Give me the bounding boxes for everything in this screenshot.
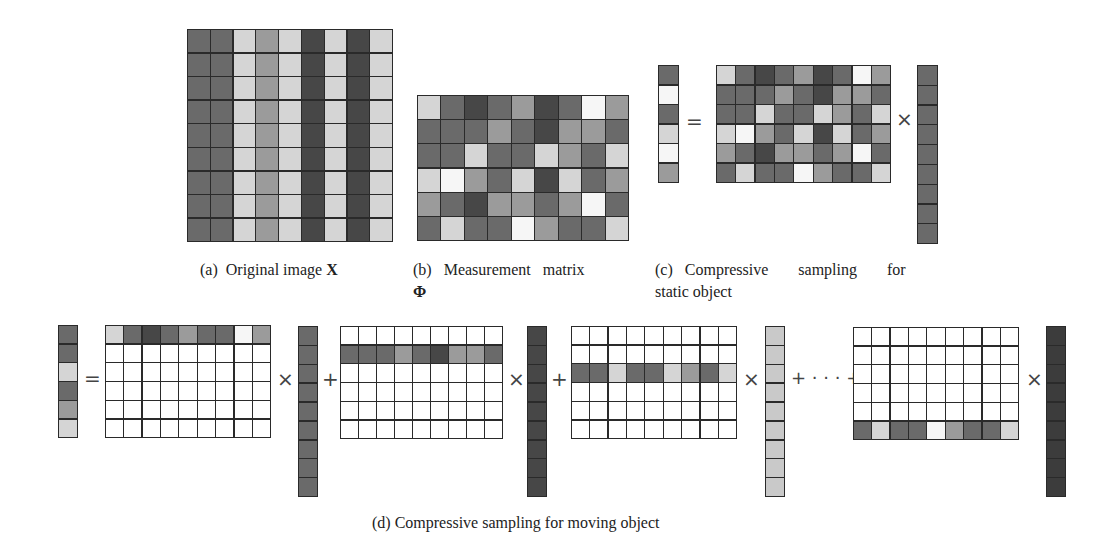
- matrix-cell: [872, 328, 889, 345]
- matrix-cell: [341, 346, 358, 363]
- matrix-cell: [418, 193, 440, 216]
- matrix-cell: [964, 328, 981, 345]
- matrix-cell: [395, 346, 412, 363]
- vector-cell: [528, 403, 546, 421]
- matrix-cell: [701, 421, 718, 438]
- pixel-cell: [256, 219, 278, 241]
- matrix-cell: [413, 421, 430, 438]
- pixel-cell: [211, 148, 233, 170]
- pixel-cell: [256, 172, 278, 194]
- matrix-cell: [627, 421, 644, 438]
- matrix-cell: [645, 383, 662, 400]
- matrix-cell: [418, 169, 440, 192]
- matrix-cell: [216, 363, 233, 380]
- matrix-cell: [198, 326, 215, 343]
- matrix-cell: [645, 421, 662, 438]
- matrix-cell: [927, 422, 944, 439]
- matrix-cell: [854, 384, 871, 401]
- caption-a: (a) Original image X: [200, 259, 338, 281]
- matrix-cell: [645, 402, 662, 419]
- pixel-cell: [188, 148, 210, 170]
- matrix-cell: [717, 144, 735, 162]
- matrix-cell: [1001, 403, 1018, 420]
- pixel-cell: [234, 101, 256, 123]
- matrix-cell: [441, 193, 463, 216]
- pixel-cell: [325, 101, 347, 123]
- vector-cell: [59, 401, 77, 418]
- matrix-cell: [719, 346, 736, 363]
- matrix-cell: [413, 402, 430, 419]
- moving-output-vector: [58, 325, 78, 438]
- pixel-cell: [348, 172, 370, 194]
- matrix-cell: [235, 420, 252, 437]
- matrix-cell: [512, 169, 534, 192]
- matrix-cell: [701, 346, 718, 363]
- pixel-cell: [211, 77, 233, 99]
- pixel-cell: [348, 54, 370, 76]
- times-sign: ×: [508, 369, 525, 389]
- vector-cell: [299, 459, 317, 477]
- matrix-cell: [179, 345, 196, 362]
- pixel-cell: [325, 124, 347, 146]
- pixel-cell: [234, 195, 256, 217]
- pixel-cell: [188, 30, 210, 52]
- matrix-cell: [143, 382, 160, 399]
- matrix-cell: [964, 347, 981, 364]
- matrix-cell: [488, 193, 510, 216]
- matrix-cell: [235, 345, 252, 362]
- vector-cell: [59, 345, 77, 362]
- matrix-cell: [682, 346, 699, 363]
- vector-cell: [918, 205, 937, 224]
- matrix-cell: [535, 193, 557, 216]
- matrix-cell: [983, 347, 1000, 364]
- matrix-cell: [467, 364, 484, 381]
- matrix-cell: [467, 327, 484, 344]
- pixel-cell: [279, 101, 301, 123]
- vector-cell: [528, 441, 546, 459]
- matrix-cell: [359, 364, 376, 381]
- matrix-cell: [441, 120, 463, 143]
- matrix-cell: [572, 364, 589, 381]
- matrix-cell: [572, 383, 589, 400]
- matrix-cell: [488, 217, 510, 240]
- matrix-cell: [485, 421, 502, 438]
- plus-sign: +: [551, 369, 568, 389]
- matrix-cell: [682, 364, 699, 381]
- matrix-cell: [124, 326, 141, 343]
- vector-cell: [1047, 365, 1065, 383]
- matrix-cell: [590, 421, 607, 438]
- vector-cell: [1047, 327, 1065, 345]
- matrix-cell: [891, 328, 908, 345]
- vector-cell: [528, 384, 546, 402]
- matrix-cell: [106, 382, 123, 399]
- matrix-cell: [606, 169, 628, 192]
- matrix-cell: [143, 326, 160, 343]
- matrix-cell: [701, 402, 718, 419]
- pixel-cell: [279, 219, 301, 241]
- matrix-cell: [216, 420, 233, 437]
- matrix-cell: [179, 401, 196, 418]
- matrix-cell: [572, 421, 589, 438]
- matrix-cell: [736, 164, 754, 182]
- matrix-cell: [449, 421, 466, 438]
- matrix-cell: [124, 420, 141, 437]
- pixel-cell: [188, 172, 210, 194]
- matrix-cell: [719, 327, 736, 344]
- matrix-cell: [814, 144, 832, 162]
- symbol-phi: Φ: [413, 283, 426, 300]
- matrix-cell: [418, 96, 440, 119]
- matrix-cell: [682, 327, 699, 344]
- matrix-cell: [359, 346, 376, 363]
- matrix-cell: [590, 402, 607, 419]
- matrix-cell: [854, 328, 871, 345]
- matrix-cell: [853, 164, 871, 182]
- matrix-cell: [572, 402, 589, 419]
- matrix-cell: [413, 383, 430, 400]
- vector-cell: [299, 384, 317, 402]
- matrix-cell: [559, 144, 581, 167]
- pixel-cell: [348, 195, 370, 217]
- matrix-cell: [235, 382, 252, 399]
- pixel-cell: [302, 172, 324, 194]
- pixel-cell: [234, 124, 256, 146]
- plus-sign: +: [322, 369, 339, 389]
